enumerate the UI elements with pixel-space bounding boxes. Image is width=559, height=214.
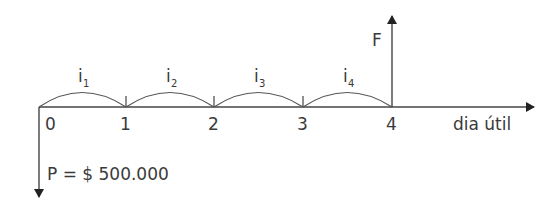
cash-flow-diagram: 0 1 2 3 4 dia útil i 1 i 2 i 3 i 4 F P =… — [0, 0, 559, 214]
tick-label-3: 3 — [297, 114, 308, 134]
rate-label-4: i 4 — [343, 66, 354, 89]
rate-label-2: i 2 — [166, 66, 177, 89]
svg-text:2: 2 — [171, 78, 177, 89]
future-value-label: F — [372, 30, 382, 50]
axis-label: dia útil — [453, 114, 511, 134]
tick-label-2: 2 — [208, 114, 219, 134]
tick-label-0: 0 — [45, 114, 56, 134]
tick-label-1: 1 — [120, 114, 131, 134]
svg-text:4: 4 — [348, 78, 354, 89]
rate-label-1: i 1 — [78, 66, 89, 89]
rate-label-3: i 3 — [254, 66, 265, 89]
tick-marks — [126, 96, 303, 107]
tick-label-4: 4 — [386, 114, 397, 134]
diagram-canvas: 0 1 2 3 4 dia útil i 1 i 2 i 3 i 4 F P =… — [0, 0, 559, 214]
present-value-label: P = $ 500.000 — [47, 164, 169, 184]
svg-text:3: 3 — [259, 78, 265, 89]
svg-text:1: 1 — [83, 78, 89, 89]
interest-arcs — [39, 93, 392, 108]
